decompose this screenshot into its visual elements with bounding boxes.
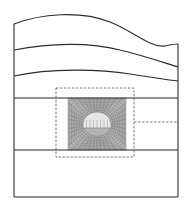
strata-lines [14, 15, 178, 81]
ground-surface [14, 15, 178, 47]
layer-boundary-1 [14, 44, 178, 67]
cross-section-diagram [0, 0, 192, 216]
layer-boundary-2 [14, 70, 178, 81]
tunnel-mesh [68, 98, 126, 150]
